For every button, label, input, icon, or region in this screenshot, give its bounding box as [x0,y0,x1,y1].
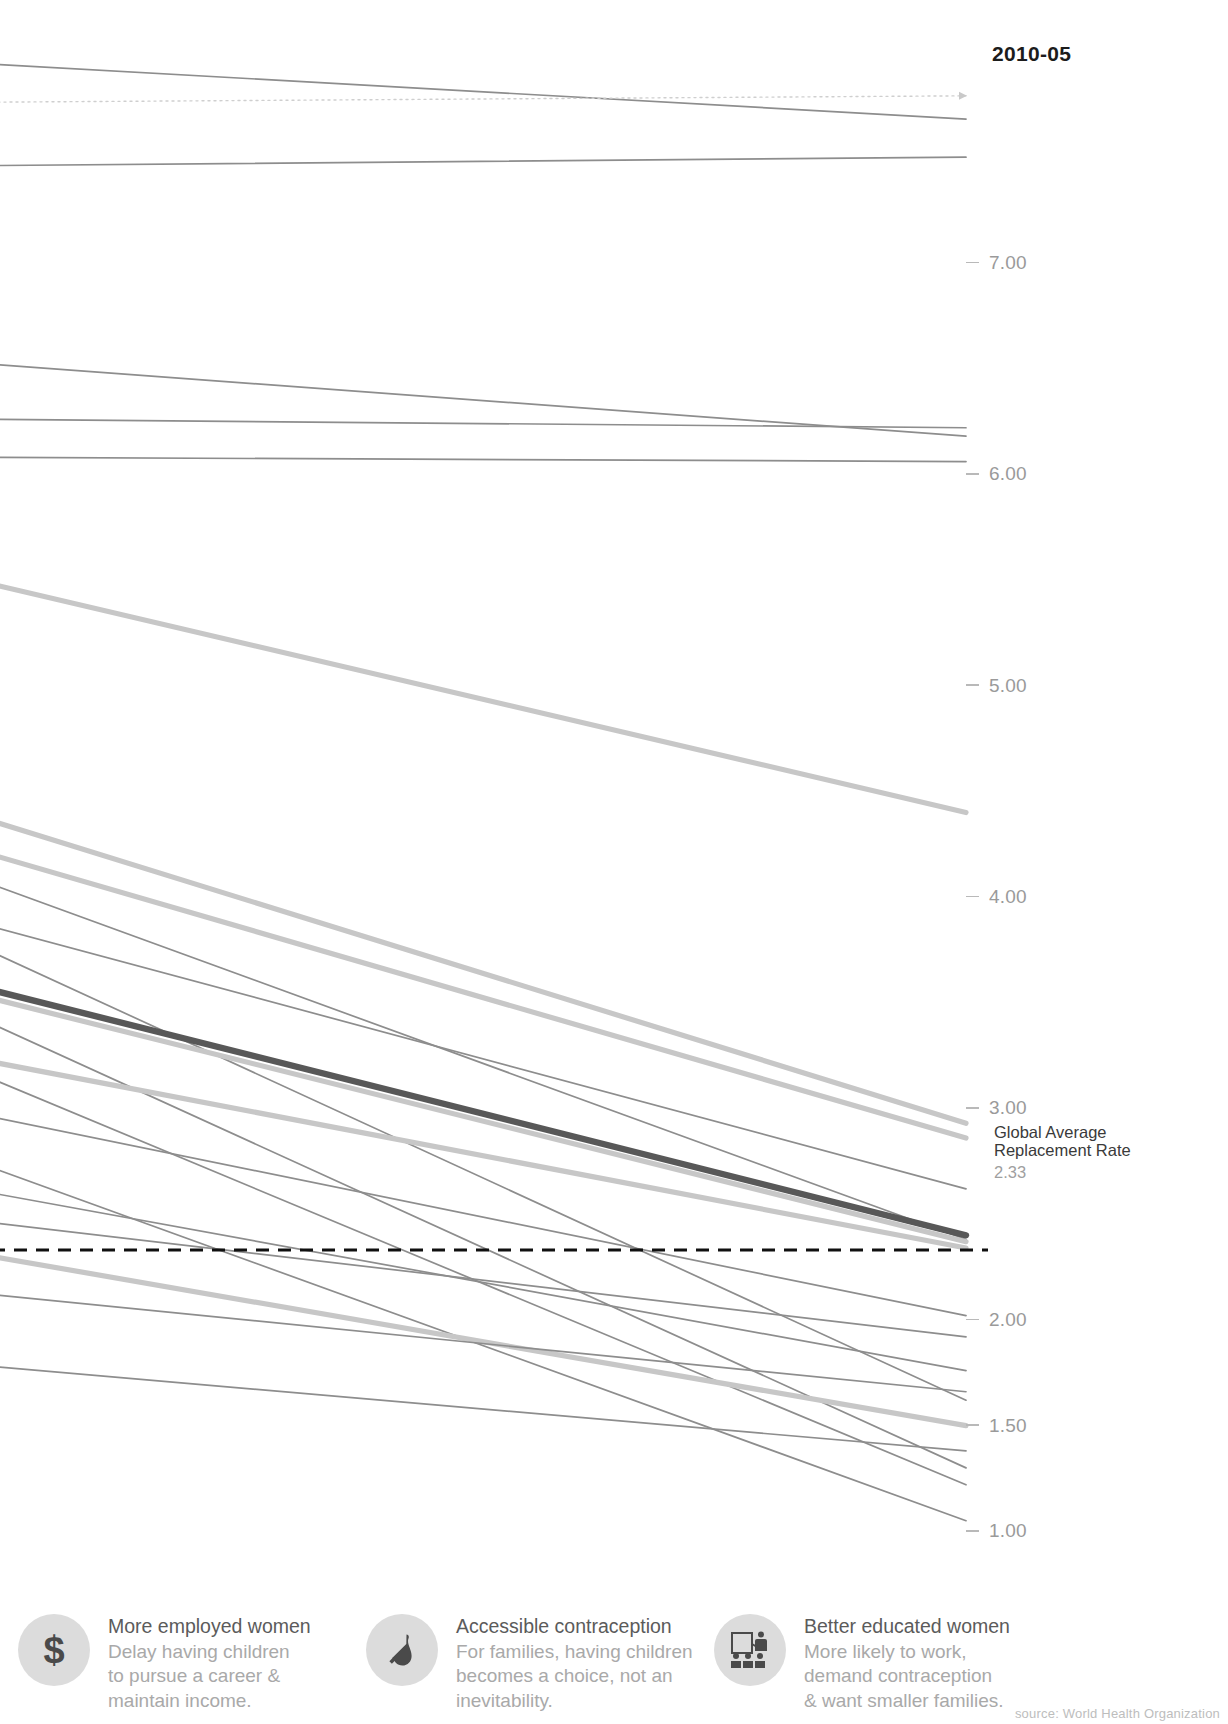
tick-label: 1.50 [989,1416,1027,1435]
series-line [0,855,966,1138]
global-average-annotation: Global Average Replacement Rate 2.33 [994,1124,1224,1182]
column-header: 2010-05 [992,42,1071,66]
y-axis-tick: 4.00 [966,887,1027,906]
dollar-sign-icon: $ [18,1614,90,1686]
tick-mark [966,1530,979,1532]
tick-label: 7.00 [989,253,1027,272]
series-line [0,1117,966,1316]
tick-mark [966,1107,979,1109]
global-average-value: 2.33 [994,1162,1224,1183]
y-axis: 2010-05 7.006.005.004.003.002.001.501.00… [966,0,1228,1600]
infographic-root: 2010-05 7.006.005.004.003.002.001.501.00… [0,0,1228,1724]
series-line [0,584,966,812]
tick-label: 2.00 [989,1310,1027,1329]
global-average-title-line1: Global Average [994,1124,1224,1142]
tick-mark [966,1319,979,1321]
series-line [0,884,966,1239]
explainer-description: More likely to work, demand contraceptio… [804,1640,1010,1713]
global-average-title-line2: Replacement Rate [994,1142,1224,1160]
dollar-glyph: $ [43,1631,64,1669]
explainer-title: Accessible contraception [456,1614,693,1639]
explainer-title: More employed women [108,1614,311,1639]
tick-label: 5.00 [989,676,1027,695]
y-axis-tick: 7.00 [966,253,1027,272]
tick-mark [966,896,979,898]
y-axis-tick: 3.00 [966,1098,1027,1117]
y-axis-tick: 5.00 [966,676,1027,695]
series-line [0,419,966,427]
y-axis-tick: 1.50 [966,1416,1027,1435]
series-line [0,952,966,1400]
y-axis-tick: 1.00 [966,1521,1027,1540]
footer-explainers: $ More employed women Delay having child… [0,1600,1228,1724]
explainer-card-education: Better educated women More likely to wor… [714,1610,1114,1713]
y-axis-tick: 6.00 [966,464,1027,483]
series-line [0,364,966,436]
tick-label: 3.00 [989,1098,1027,1117]
series-line [0,1295,966,1392]
tick-label: 6.00 [989,464,1027,483]
tick-mark [966,684,979,686]
tick-mark [966,1424,979,1426]
series-line [0,96,966,102]
series-line [0,999,966,1242]
series-line [0,990,966,1235]
tick-mark [966,473,979,475]
tick-mark [966,262,979,264]
series-line [0,1223,966,1337]
tick-label: 1.00 [989,1521,1027,1540]
series-line [0,1366,966,1451]
source-credit: source: World Health Organization [1015,1706,1220,1721]
condom-icon [366,1614,438,1686]
explainer-description: For families, having children becomes a … [456,1640,693,1713]
explainer-card-contraception: Accessible contraception For families, h… [366,1610,746,1713]
series-line [0,157,966,165]
tick-label: 4.00 [989,887,1027,906]
series-line [0,821,966,1123]
explainer-description: Delay having children to pursue a career… [108,1640,311,1713]
classroom-education-icon [714,1614,786,1686]
y-axis-tick: 2.00 [966,1310,1027,1329]
explainer-title: Better educated women [804,1614,1010,1639]
explainer-card-employed-women: $ More employed women Delay having child… [18,1610,398,1713]
series-line [0,927,966,1189]
series-line [0,64,966,119]
series-line [0,457,966,461]
